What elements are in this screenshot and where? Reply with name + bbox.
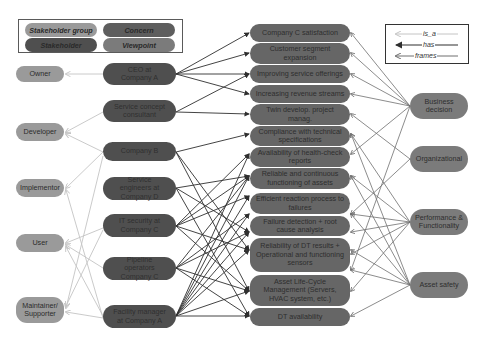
concern-twin-develop-project-manag: Twin develop. project manag.: [250, 104, 350, 125]
concern-compliance-technical-specs: Compliance with technical specifications: [250, 126, 350, 146]
stakeholder-service-engineers: Service engineers at Company D: [103, 177, 176, 200]
stakeholder-company-b: Company B: [103, 142, 176, 161]
stakeholder-group-developer: Developer: [16, 123, 64, 141]
legend-viewpoint: Viewpoint: [103, 38, 175, 52]
legend-stakeholder: Stakeholder: [25, 38, 97, 52]
stakeholder-group-implementor: Implementor: [16, 179, 64, 197]
concern-increasing-revenue-streams: Increasing revenue streams: [250, 85, 350, 103]
legend-has-label: has: [422, 40, 435, 50]
is-a-edges: [66, 74, 103, 318]
stakeholder-group-maintainer: Maintainer/ Supporter: [16, 297, 64, 323]
concern-availability-health-check-reports: Availability of health-check reports: [250, 147, 350, 167]
concern-company-c-satisfaction: Company C satisfaction: [250, 24, 350, 42]
concern-reliability-dt-results-sensors: Reliability of DT results + Operational …: [250, 238, 350, 272]
has-edges: [176, 33, 249, 316]
stakeholder-group-user: User: [16, 234, 64, 252]
relation-legend: is_a has frames: [385, 24, 469, 64]
legend-is-a-label: is_a: [422, 29, 437, 39]
viewpoint-performance-functionality: Performance & Functionality: [410, 209, 468, 235]
legend-concern: Concern: [103, 23, 175, 37]
legend-frames-label: frames: [414, 51, 437, 61]
concern-failure-detection-root-cause: Failure detection + root cause analysis: [250, 216, 350, 236]
concern-asset-life-cycle-management: Asset Life-Cycle Management (Servers, HV…: [250, 275, 350, 306]
concern-efficient-reaction-process: Efficient reaction process to failures: [250, 193, 350, 214]
concern-reliable-continuous-functioning: Reliable and continuous functioning of a…: [250, 168, 350, 189]
stakeholder-group-owner: Owner: [16, 66, 64, 82]
viewpoint-asset-safety: Asset safety: [410, 272, 468, 298]
stakeholder-it-security: IT security at Company C: [103, 214, 176, 237]
concern-customer-segment-expansion: Customer segment expansion: [250, 43, 350, 64]
viewpoint-organizational: Organizational: [410, 146, 468, 172]
stakeholder-facility-manager: Facility manager at Company A: [103, 305, 176, 328]
frames-edges: [351, 33, 410, 316]
concern-improving-service-offerings: Improving service offerings: [250, 65, 350, 83]
stakeholder-ceo: CEO at Company A: [103, 63, 176, 85]
stakeholder-pipeline-operators: Pipeline operators Company C: [103, 257, 176, 280]
concern-dt-availability: DT availability: [250, 308, 350, 326]
stakeholder-consultant: Service concept consultant: [103, 100, 176, 122]
viewpoint-business-decision: Business decision: [410, 93, 468, 119]
legend-stakeholder-group: Stakeholder group: [25, 23, 97, 37]
stakeholder-concern-viewpoint-diagram: Stakeholder group Concern Stakeholder Vi…: [0, 0, 485, 342]
node-type-legend: Stakeholder group Concern Stakeholder Vi…: [18, 19, 183, 53]
